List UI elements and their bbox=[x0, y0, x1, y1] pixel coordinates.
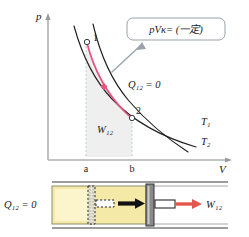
cylinder-work-label: W₁₂ bbox=[206, 199, 222, 210]
callout-text: pVκ= (一定) bbox=[148, 24, 203, 36]
callout-leader-line bbox=[112, 46, 140, 72]
x-axis-arrow-icon bbox=[225, 157, 232, 162]
piston-initial-position bbox=[88, 186, 95, 224]
piston-final-highlight bbox=[148, 186, 150, 224]
y-axis-label: p bbox=[35, 10, 42, 22]
callout-leader-tail bbox=[136, 42, 146, 50]
x-axis-label: V bbox=[219, 163, 227, 175]
state-point-2-label: 2 bbox=[136, 105, 141, 116]
adiabatic-label: Q₁₂ = 0 bbox=[128, 79, 161, 90]
piston-initial-rod bbox=[96, 200, 114, 207]
xtick-label-a: a bbox=[84, 163, 89, 174]
thermodynamics-figure: p V pVκ= (一定) 1 2 T₁ T₂ Q₁₂ = 0 W₁₂ a b bbox=[0, 0, 249, 237]
state-point-2-marker bbox=[129, 115, 134, 120]
piston-final-position bbox=[146, 184, 154, 226]
cylinder-heat-label: Q₁₂ = 0 bbox=[4, 199, 37, 210]
cylinder-piston-diagram: Q₁₂ = 0 W₁₂ bbox=[4, 182, 228, 228]
piston-final-rod bbox=[155, 200, 175, 208]
state-point-1-label: 1 bbox=[93, 32, 98, 43]
isotherm-t1-label: T₁ bbox=[201, 116, 211, 127]
isotherm-t2-label: T₂ bbox=[201, 136, 211, 147]
pv-diagram: p V pVκ= (一定) 1 2 T₁ T₂ Q₁₂ = 0 W₁₂ a b bbox=[35, 10, 232, 175]
state-point-1-marker bbox=[84, 39, 89, 44]
xtick-label-b: b bbox=[130, 163, 135, 174]
work-area-label: W₁₂ bbox=[97, 124, 113, 135]
y-axis-arrow-icon bbox=[45, 13, 50, 20]
